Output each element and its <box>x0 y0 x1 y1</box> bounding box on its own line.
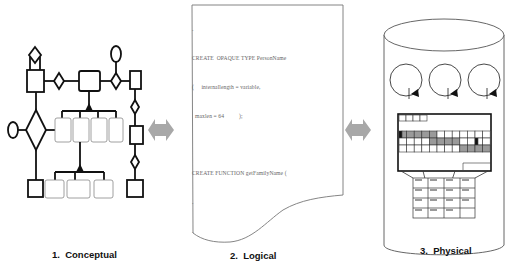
er-attribute <box>8 122 18 138</box>
code-line: . <box>192 198 352 208</box>
er-subtype <box>73 118 89 142</box>
er-entity-top-left <box>27 70 44 92</box>
disk-pages <box>413 178 475 218</box>
er-entity-mid-right <box>130 126 143 144</box>
er-relationship <box>131 100 139 114</box>
label-physical: 3. Physical <box>420 245 472 256</box>
er-subtype <box>94 180 113 198</box>
er-attribute <box>111 46 121 62</box>
er-relationship-large <box>26 110 46 150</box>
er-entity-bottom-right <box>127 180 143 197</box>
er-subtype <box>91 118 107 142</box>
er-subtype <box>55 118 71 142</box>
er-subtype <box>109 118 123 142</box>
sql-code-listing: . CREATE OPAQUE TYPE PersonName ( intern… <box>192 6 352 268</box>
er-subtype <box>67 180 90 198</box>
er-subtype <box>45 180 64 198</box>
er-relationship <box>131 155 139 169</box>
code-line: ( internallength = variable, <box>192 83 352 93</box>
label-conceptual: 1. Conceptual <box>52 249 117 260</box>
double-arrow-icon <box>148 119 174 141</box>
code-line: CREATE FUNCTION getFamilyName ( <box>192 169 352 179</box>
er-relationship <box>111 73 121 89</box>
label-logical: 2. Logical <box>230 250 276 261</box>
code-line: maxlen = 64 ); <box>192 112 352 122</box>
er-entity-bottom-left <box>28 180 43 197</box>
code-line <box>192 140 352 150</box>
code-line: . <box>192 227 352 237</box>
code-line: CREATE OPAQUE TYPE PersonName <box>192 54 352 64</box>
er-entity-top-right <box>130 71 141 89</box>
code-line: . <box>192 25 352 35</box>
er-entity-center <box>79 71 100 91</box>
er-relationship <box>54 73 64 89</box>
